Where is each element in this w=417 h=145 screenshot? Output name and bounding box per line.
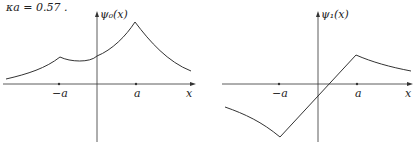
- x-label: x: [186, 87, 193, 100]
- tick-label-pos-a: a: [355, 87, 362, 100]
- curve-psi0: [6, 22, 191, 79]
- tick-label-neg-a: −a: [52, 87, 68, 100]
- plot-psi0: −a a x ψ₀(x): [3, 8, 196, 142]
- tick-label-neg-a: −a: [272, 87, 288, 100]
- figure: κa = 0.57 . −a a x ψ₀(x) −a a x ψ₁(x): [0, 0, 417, 145]
- tick-pos-a: [135, 83, 137, 85]
- y-axis-arrow-icon: [316, 11, 320, 17]
- tick-pos-a: [356, 83, 358, 85]
- tick-neg-a: [278, 83, 280, 85]
- y-label: ψ₁(x): [321, 8, 349, 21]
- x-label: x: [405, 87, 412, 100]
- y-axis-arrow-icon: [95, 11, 99, 17]
- caption: κa = 0.57 .: [5, 1, 67, 14]
- tick-neg-a: [58, 83, 60, 85]
- y-label: ψ₀(x): [100, 8, 128, 21]
- x-axis-arrow-icon: [190, 82, 196, 86]
- x-axis-arrow-icon: [407, 82, 413, 86]
- tick-label-pos-a: a: [134, 87, 141, 100]
- plot-psi1: −a a x ψ₁(x): [222, 8, 413, 142]
